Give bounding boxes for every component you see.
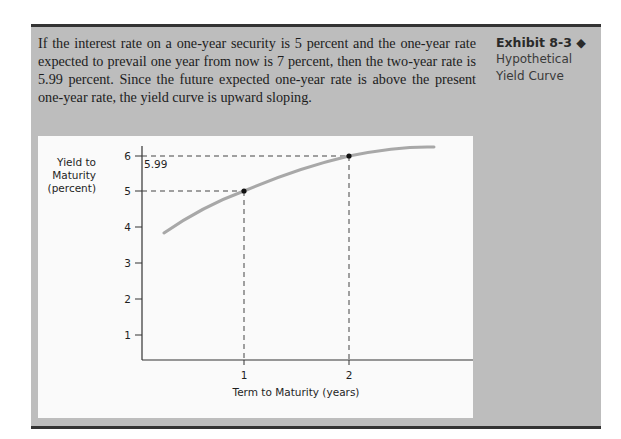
y-tick-4: 4 — [124, 221, 131, 233]
y-tick-2: 2 — [124, 293, 131, 305]
y-tick-5: 5 — [124, 185, 131, 197]
exhibit-number: Exhibit 8-3 ◆ — [496, 34, 596, 51]
exhibit-label: Exhibit 8-3 ◆ Hypothetical Yield Curve — [496, 34, 596, 85]
point-year-2 — [346, 153, 351, 158]
svg-text:Maturity: Maturity — [52, 169, 96, 181]
svg-text:Yield to: Yield to — [56, 156, 96, 168]
annotation-5-99: 5.99 — [144, 158, 167, 170]
svg-text:(percent): (percent) — [48, 182, 96, 194]
y-tick-1: 1 — [124, 329, 131, 341]
guide-lines — [142, 156, 349, 360]
exhibit-title: Hypothetical Yield Curve — [496, 51, 596, 85]
y-ticks: 6 5 4 3 2 1 — [124, 150, 142, 341]
chart-panel: 6 5 4 3 2 1 Yield to Maturity (percent) … — [38, 136, 473, 418]
x-axis-label: Term to Maturity (years) — [232, 386, 360, 398]
x-tick-2: 2 — [346, 369, 353, 381]
point-year-1 — [241, 188, 246, 193]
y-tick-3: 3 — [124, 257, 131, 269]
yield-curve-line — [164, 147, 434, 233]
exhibit-caption: If the interest rate on a one-year secur… — [38, 34, 476, 106]
y-axis-label: Yield to Maturity (percent) — [48, 156, 96, 194]
x-tick-1: 1 — [241, 369, 248, 381]
yield-curve-chart: 6 5 4 3 2 1 Yield to Maturity (percent) … — [38, 136, 473, 418]
y-tick-6: 6 — [124, 150, 131, 162]
x-ticks: 1 2 — [241, 360, 353, 381]
